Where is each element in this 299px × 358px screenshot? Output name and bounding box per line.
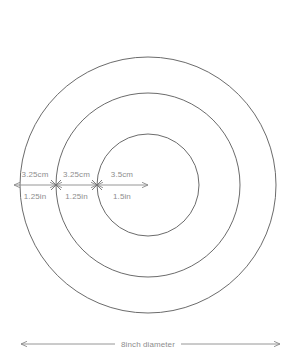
label-segment-inner-metric: 3.5cm xyxy=(111,170,134,179)
label-segment-middle-metric: 3.25cm xyxy=(63,170,90,179)
label-segment-middle-imperial: 1.25in xyxy=(65,192,87,201)
label-segment-outer-imperial: 1.25in xyxy=(24,192,46,201)
label-segment-inner-imperial: 1.5in xyxy=(113,192,131,201)
overall-diameter-label: 8inch diameter xyxy=(121,340,175,349)
label-segment-outer-metric: 3.25cm xyxy=(22,170,49,179)
diagram-canvas: 3.25cm 3.25cm 3.5cm 1.25in 1.25in 1.5in … xyxy=(0,0,299,358)
concentric-circles-diagram: 3.25cm 3.25cm 3.5cm 1.25in 1.25in 1.5in … xyxy=(0,0,299,358)
